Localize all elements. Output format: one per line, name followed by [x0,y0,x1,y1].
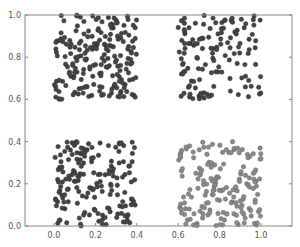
y-axis: 0.00.20.40.60.81.0 [8,11,292,231]
data-point [108,192,112,196]
data-point [252,177,256,181]
data-point [100,56,104,60]
data-point [220,150,224,154]
data-point [134,18,138,22]
data-point [74,179,78,183]
data-point [71,93,75,97]
data-point [81,91,85,95]
data-point [114,21,118,25]
data-point [188,187,192,191]
data-point [117,79,121,83]
data-point [70,152,74,156]
data-point [101,92,105,96]
data-point [228,89,232,93]
data-point [253,62,257,66]
data-point [65,140,69,144]
data-point [216,211,220,215]
data-point [219,42,223,46]
data-point [58,153,62,157]
data-point [239,17,243,21]
data-point [207,211,211,215]
data-point [243,74,247,78]
data-point [117,149,121,153]
data-point [86,191,90,195]
data-point [108,23,112,27]
data-point [180,148,184,152]
data-point [97,219,101,223]
data-point [183,207,187,211]
data-point [96,153,100,157]
data-point [178,154,182,158]
data-point [96,28,100,32]
data-point [212,84,216,88]
data-point [120,205,124,209]
data-point [258,214,262,218]
data-point [246,51,250,55]
data-point [126,17,130,21]
data-point [184,145,188,149]
data-point [117,161,121,165]
data-point [76,55,80,59]
data-point [106,56,110,60]
data-point [91,14,95,18]
data-point [77,41,81,45]
data-point [215,197,219,201]
data-point [232,51,236,55]
data-point [107,94,111,98]
data-point [228,76,232,80]
data-point [82,19,86,23]
data-point [258,208,262,212]
data-point [96,211,100,215]
data-point [200,36,204,40]
data-point [100,189,104,193]
data-point [82,32,86,36]
data-point [202,206,206,210]
data-point [109,44,113,48]
data-point [59,184,63,188]
data-point [246,95,250,99]
data-point [230,20,234,24]
data-point [209,46,213,50]
data-point [223,53,227,57]
data-point [57,190,61,194]
data-point [197,97,201,101]
data-point [76,161,80,165]
data-point [80,194,84,198]
data-point [237,151,241,155]
data-point [203,62,207,66]
data-point [116,64,120,68]
data-point [182,201,186,205]
data-point [75,201,79,205]
data-point [62,35,66,39]
data-point [96,16,100,20]
data-point [251,152,255,156]
data-point [180,72,184,76]
data-point [182,51,186,55]
data-point [64,177,68,181]
data-point [122,94,126,98]
data-point [94,47,98,51]
data-point [182,21,186,25]
data-point [70,173,74,177]
data-point [87,213,91,217]
data-point [255,192,259,196]
data-point [197,148,201,152]
data-point [83,51,87,55]
data-point [217,65,221,69]
data-point [207,35,211,39]
data-point [234,213,238,217]
data-point [183,46,187,50]
data-point [192,79,196,83]
data-point [191,96,195,100]
data-point [197,77,201,81]
data-point [113,82,117,86]
data-point [115,72,119,76]
data-point [251,18,255,22]
data-point [105,206,109,210]
x-tick-label: 0.0 [48,231,61,240]
data-point [206,201,210,205]
data-point [119,141,123,145]
data-point [108,37,112,41]
data-point [196,177,200,181]
data-point [186,66,190,70]
